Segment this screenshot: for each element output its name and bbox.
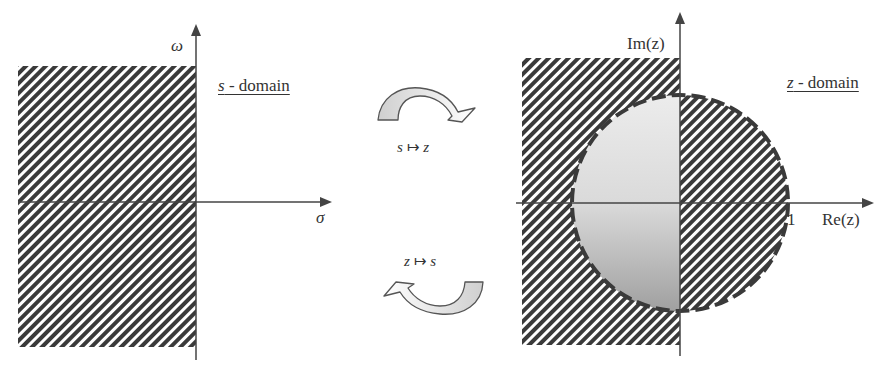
unit-tick-label: 1	[787, 210, 796, 230]
inverse-map-arrow-icon	[384, 282, 483, 314]
s-real-axis-label: σ	[316, 208, 324, 228]
forward-map-from: s	[397, 139, 403, 155]
s-imag-axis-arrowhead	[191, 24, 201, 36]
s-imag-axis-label: ω	[171, 36, 183, 56]
forward-map-arrow-icon	[378, 88, 475, 122]
inverse-map-label: z ↦ s	[404, 252, 436, 270]
s-domain-title: s - domain	[218, 76, 290, 96]
maps-to-icon: ↦	[407, 139, 420, 155]
z-real-axis-label: Re(z)	[822, 210, 860, 230]
inverse-map-to: s	[430, 253, 436, 269]
s-left-half-plane-hatch	[18, 66, 196, 347]
z-imag-axis-label: Im(z)	[627, 34, 665, 54]
s-domain-title-var: s	[218, 76, 225, 95]
s-real-axis-arrowhead	[320, 197, 332, 207]
z-domain-plot	[516, 12, 874, 356]
z-domain-title: z - domain	[787, 73, 859, 93]
diagram-canvas	[0, 0, 894, 372]
z-imag-axis-arrowhead	[675, 12, 685, 24]
inverse-map-from: z	[404, 253, 410, 269]
z-real-axis-arrowhead	[862, 198, 874, 208]
maps-to-icon: ↦	[414, 253, 427, 269]
z-domain-title-var: z	[787, 73, 794, 92]
s-domain-title-rest: - domain	[225, 76, 290, 95]
forward-map-label: s ↦ z	[397, 138, 429, 156]
s-domain-plot	[18, 24, 332, 360]
forward-map-to: z	[423, 139, 429, 155]
z-domain-title-rest: - domain	[794, 73, 859, 92]
